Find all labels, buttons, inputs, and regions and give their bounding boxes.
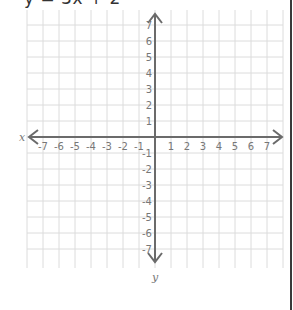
y-tick-label: 6 — [146, 36, 152, 47]
x-tick-label: 5 — [232, 141, 238, 152]
y-tick-label: -4 — [142, 196, 152, 207]
x-tick-label: -3 — [102, 141, 112, 152]
y-tick-label: 3 — [146, 84, 152, 95]
x-tick-label: 7 — [264, 141, 270, 152]
x-tick-label: -2 — [118, 141, 128, 152]
x-tick-label: -7 — [38, 141, 48, 152]
right-border-divider — [290, 0, 292, 310]
y-tick-label: 4 — [146, 68, 152, 79]
y-tick-label: 5 — [146, 52, 152, 63]
x-tick-label: -4 — [86, 141, 96, 152]
coordinate-plane: -7-6-5-4-3-2-112345677654321-1-2-3-4-5-6… — [0, 0, 293, 310]
y-tick-label: 1 — [146, 116, 152, 127]
y-tick-label: -7 — [142, 244, 152, 255]
y-tick-label: 7 — [146, 20, 152, 31]
y-tick-label: -3 — [142, 180, 152, 191]
y-axis-label: y — [151, 271, 159, 284]
x-tick-label: -6 — [54, 141, 64, 152]
x-tick-label: 1 — [168, 141, 174, 152]
x-tick-label: 3 — [200, 141, 206, 152]
x-axis-label: x — [19, 131, 26, 144]
axes — [29, 14, 282, 262]
x-tick-label: 6 — [248, 141, 254, 152]
x-tick-label: -5 — [70, 141, 80, 152]
y-tick-label: -6 — [142, 228, 152, 239]
y-tick-label: -2 — [142, 164, 152, 175]
y-tick-label: -1 — [142, 148, 152, 159]
x-tick-label: 4 — [216, 141, 222, 152]
y-tick-label: -5 — [142, 212, 152, 223]
y-tick-label: 2 — [146, 100, 152, 111]
x-tick-label: 2 — [184, 141, 190, 152]
